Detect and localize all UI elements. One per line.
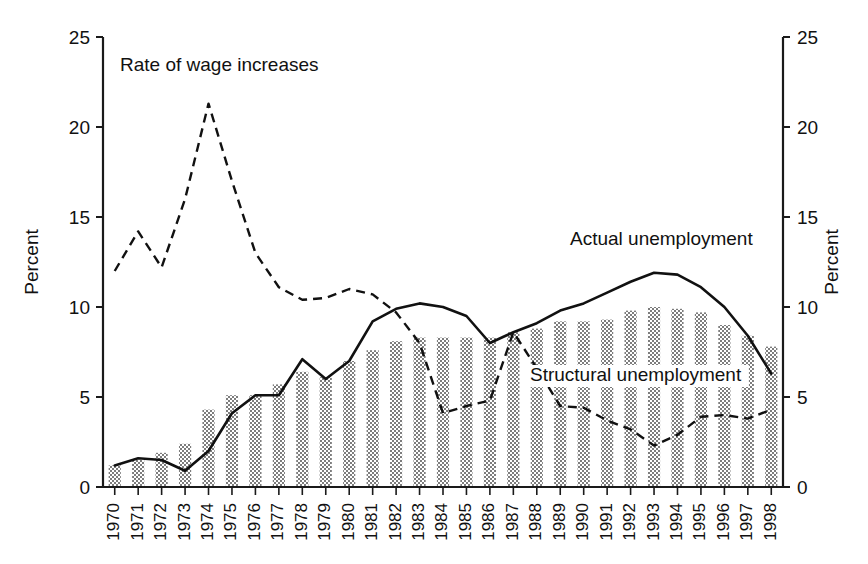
x-tick-label-1978: 1978 <box>292 503 311 541</box>
bar-1986 <box>484 338 496 487</box>
x-tick-label-1995: 1995 <box>690 503 709 541</box>
bar-1983 <box>413 338 425 487</box>
x-tick-label-1981: 1981 <box>362 503 381 541</box>
x-tick-label-1980: 1980 <box>339 503 358 541</box>
y-tick-label-right-15: 15 <box>797 207 818 228</box>
x-tick-label-1989: 1989 <box>550 503 569 541</box>
y-tick-label-left-10: 10 <box>69 297 90 318</box>
bar-1970 <box>109 465 121 487</box>
x-tick-label-1987: 1987 <box>503 503 522 541</box>
structural-label: Structural unemployment <box>530 364 742 385</box>
bar-1979 <box>320 377 332 487</box>
y-tick-label-right-20: 20 <box>797 117 818 138</box>
x-tick-label-1994: 1994 <box>667 503 686 541</box>
bar-1994 <box>671 309 683 487</box>
x-tick-label-1997: 1997 <box>737 503 756 541</box>
y-axis-left-tick-labels: 0510152025 <box>69 27 90 498</box>
x-tick-label-1974: 1974 <box>198 503 217 541</box>
bar-1977 <box>273 384 285 487</box>
x-tick-label-1982: 1982 <box>386 503 405 541</box>
bar-1974 <box>202 410 214 487</box>
bar-1976 <box>249 395 261 487</box>
x-tick-label-1971: 1971 <box>128 503 147 541</box>
x-tick-label-1984: 1984 <box>432 503 451 541</box>
y-tick-label-left-5: 5 <box>79 387 90 408</box>
x-tick-label-1990: 1990 <box>573 503 592 541</box>
bar-1995 <box>695 312 707 487</box>
bar-1982 <box>390 341 402 487</box>
bar-1971 <box>132 460 144 487</box>
x-tick-label-1986: 1986 <box>479 503 498 541</box>
y-tick-label-right-10: 10 <box>797 297 818 318</box>
x-tick-label-1983: 1983 <box>409 503 428 541</box>
x-tick-label-1977: 1977 <box>268 503 287 541</box>
chart-figure: 0510152025 0510152025 197019711972197319… <box>0 0 868 564</box>
bar-1992 <box>624 311 636 487</box>
bar-1991 <box>601 320 613 487</box>
y-tick-label-right-5: 5 <box>797 387 808 408</box>
y-tick-label-right-0: 0 <box>797 477 808 498</box>
actual-label: Actual unemployment <box>570 228 753 249</box>
x-tick-label-1972: 1972 <box>151 503 170 541</box>
y-axis-right-title: Percent <box>821 229 842 295</box>
x-tick-label-1973: 1973 <box>175 503 194 541</box>
bar-1993 <box>648 307 660 487</box>
x-tick-label-1979: 1979 <box>315 503 334 541</box>
y-tick-label-right-25: 25 <box>797 27 818 48</box>
x-tick-label-1985: 1985 <box>456 503 475 541</box>
x-tick-label-1993: 1993 <box>644 503 663 541</box>
bars-structural-unemployment <box>109 307 778 487</box>
y-tick-label-left-25: 25 <box>69 27 90 48</box>
bar-1990 <box>578 321 590 487</box>
x-tick-label-1991: 1991 <box>597 503 616 541</box>
x-tick-label-1976: 1976 <box>245 503 264 541</box>
x-tick-label-1975: 1975 <box>221 503 240 541</box>
bar-1996 <box>718 325 730 487</box>
bar-1978 <box>296 372 308 487</box>
bar-1997 <box>742 336 754 487</box>
bar-1985 <box>460 338 472 487</box>
bar-1972 <box>156 453 168 487</box>
x-tick-label-1992: 1992 <box>620 503 639 541</box>
bar-1973 <box>179 444 191 487</box>
bar-1981 <box>367 350 379 487</box>
x-tick-label-1988: 1988 <box>526 503 545 541</box>
bar-1987 <box>507 332 519 487</box>
wage-label: Rate of wage increases <box>120 54 319 75</box>
y-tick-label-left-20: 20 <box>69 117 90 138</box>
y-tick-label-left-0: 0 <box>79 477 90 498</box>
bar-1980 <box>343 361 355 487</box>
x-tick-label-1996: 1996 <box>714 503 733 541</box>
unemployment-wage-chart: 0510152025 0510152025 197019711972197319… <box>0 0 868 564</box>
x-tick-label-1970: 1970 <box>104 503 123 541</box>
x-axis-tick-labels: 1970197119721973197419751976197719781979… <box>104 503 780 541</box>
y-axis-left-title: Percent <box>21 229 42 295</box>
x-tick-label-1998: 1998 <box>761 503 780 541</box>
y-tick-label-left-15: 15 <box>69 207 90 228</box>
bar-1988 <box>531 329 543 487</box>
y-axis-right-tick-labels: 0510152025 <box>797 27 818 498</box>
